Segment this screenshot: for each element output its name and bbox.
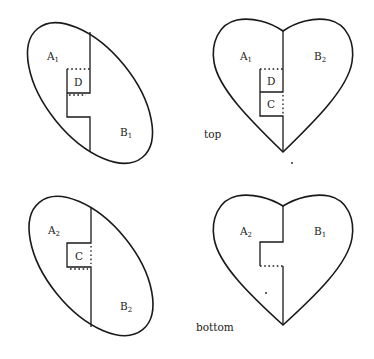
speck-mark xyxy=(291,162,293,164)
heart-top-label-b: B2 xyxy=(314,50,326,64)
heart-top-label-d: D xyxy=(267,75,275,87)
ellipse-bottom-panel: A2 B2 C xyxy=(5,175,177,358)
ellipse-top-label-a: A1 xyxy=(46,50,59,64)
heart-bottom-panel: A2 B1 xyxy=(213,195,352,325)
heart-bottom-label-b: B1 xyxy=(314,225,326,239)
ellipse-bottom-outline xyxy=(5,175,177,358)
speck-mark xyxy=(265,292,267,294)
heart-top-label-c: C xyxy=(267,98,275,110)
heart-top-divider xyxy=(260,31,283,152)
figure-canvas: A1 B1 D A1 B2 D C top A2 B2 xyxy=(0,0,374,359)
ellipse-top-label-b: B1 xyxy=(120,126,132,140)
ellipse-bottom-label-b: B2 xyxy=(120,300,132,314)
heart-top-label-a: A1 xyxy=(239,50,252,64)
heart-bottom-label-a: A2 xyxy=(239,225,252,239)
heart-top-panel: A1 B2 D C xyxy=(213,19,352,164)
caption-top: top xyxy=(204,128,222,140)
ellipse-top-panel: A1 B1 D xyxy=(4,1,177,185)
ellipse-top-divider xyxy=(67,32,90,152)
ellipse-bottom-label-c: C xyxy=(75,250,83,262)
caption-bottom: bottom xyxy=(196,321,234,333)
ellipse-bottom-label-a: A2 xyxy=(47,224,60,238)
ellipse-top-label-d: D xyxy=(74,76,82,88)
